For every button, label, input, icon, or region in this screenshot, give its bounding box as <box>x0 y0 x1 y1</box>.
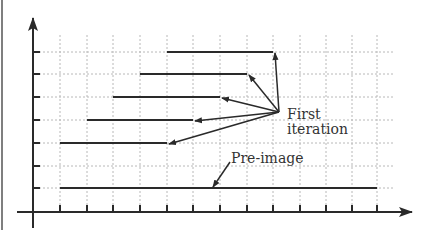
segments <box>60 52 377 188</box>
first-iteration-arrow <box>169 112 279 144</box>
first-iteration-arrow <box>222 98 279 112</box>
fractal-iteration-diagram: First iteration Pre-image <box>0 0 431 230</box>
axes <box>17 18 412 228</box>
first-iteration-label-line1: First <box>287 106 321 122</box>
preimage-label: Pre-image <box>231 150 303 166</box>
first-iteration-label-line2: iteration <box>287 121 348 137</box>
first-iteration-arrow <box>275 53 279 112</box>
